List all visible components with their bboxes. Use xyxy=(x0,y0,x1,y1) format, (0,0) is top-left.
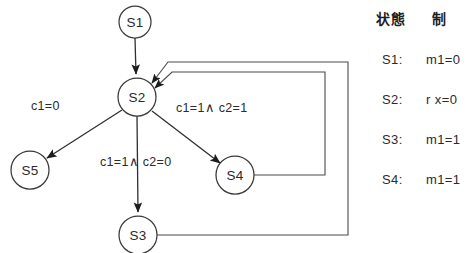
legend-header-control: 制 xyxy=(432,8,446,28)
node-s3-label: S3 xyxy=(130,228,147,243)
node-s3[interactable]: S3 xyxy=(119,216,157,253)
legend-row-state: S3: xyxy=(382,132,403,147)
node-s1-label: S1 xyxy=(127,15,144,30)
edge-s3-to-s2 xyxy=(152,62,348,235)
node-s5-label: S5 xyxy=(22,163,39,178)
node-s5[interactable]: S5 xyxy=(11,151,49,189)
legend-header: 状態 制 xyxy=(376,8,469,30)
legend-row-value: m1=1 xyxy=(426,132,460,147)
edge-s2-to-s5 xyxy=(47,110,122,158)
node-s4[interactable]: S4 xyxy=(216,156,254,194)
legend-row: S3: m1=1 xyxy=(376,132,469,152)
edge-label-s2-s5: c1=0 xyxy=(31,99,60,113)
legend-row-state: S1: xyxy=(382,52,403,67)
state-legend: 状態 制 S1: m1=0 S2: r x=0 S3: m1=1 S4: m1=… xyxy=(376,0,469,253)
node-s2[interactable]: S2 xyxy=(118,78,156,116)
legend-row-value: r x=0 xyxy=(426,92,457,107)
state-transition-figure: S1 S2 S5 S3 S4 c1=0 c1=1∧ c2=1 c1=1∧ c2=… xyxy=(0,0,469,253)
legend-row: S2: r x=0 xyxy=(376,92,469,112)
legend-row: S4: m1=1 xyxy=(376,172,469,192)
edge-s1-to-s2 xyxy=(135,38,136,74)
edge-label-s2-s4: c1=1∧ c2=1 xyxy=(176,101,247,115)
legend-row-state: S4: xyxy=(382,172,403,187)
node-s4-label: S4 xyxy=(227,168,244,183)
node-s1[interactable]: S1 xyxy=(119,6,151,38)
edge-label-s2-s3: c1=1∧ c2=0 xyxy=(100,155,171,169)
legend-header-state: 状態 xyxy=(376,8,405,28)
legend-row-value: m1=0 xyxy=(426,52,460,67)
legend-row: S1: m1=0 xyxy=(376,52,469,72)
node-s2-label: S2 xyxy=(129,90,146,105)
legend-row-value: m1=1 xyxy=(426,172,460,187)
legend-row-state: S2: xyxy=(382,92,403,107)
